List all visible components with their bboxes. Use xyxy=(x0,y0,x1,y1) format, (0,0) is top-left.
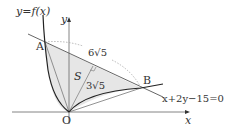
x-axis-label: x xyxy=(185,114,192,127)
segment-ab-label: 6√5 xyxy=(88,47,107,58)
region-label: S xyxy=(74,70,82,83)
line-equation-label: x+2y−15=0 xyxy=(162,93,224,104)
point-b-label: B xyxy=(143,74,151,87)
origin-label: O xyxy=(62,114,71,127)
y-axis-arrow-icon xyxy=(67,17,71,22)
curve-label: y=f(x) xyxy=(15,5,50,18)
point-a-label: A xyxy=(35,40,45,53)
diagram: y=f(x) y x O A B 6√5 3√5 S x+2y−15=0 xyxy=(0,0,236,134)
distance-label: 3√5 xyxy=(86,80,105,91)
y-axis-label: y xyxy=(60,13,68,26)
